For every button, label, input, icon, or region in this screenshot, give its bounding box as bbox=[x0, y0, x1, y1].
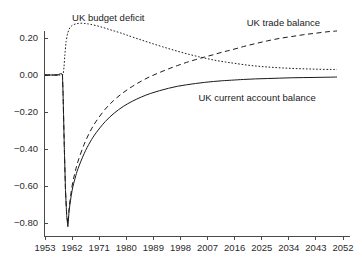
y-tick-label: 0.00 bbox=[20, 69, 39, 80]
x-tick-label: 2016 bbox=[224, 242, 245, 253]
x-tick-label: 2034 bbox=[278, 242, 299, 253]
x-axis-tick-labels: 1953196219711980198919982007201620252034… bbox=[34, 242, 353, 253]
x-tick-label: 2043 bbox=[305, 242, 326, 253]
x-tick-label: 2025 bbox=[251, 242, 272, 253]
chart-figure: 0.200.00−0.20−0.40−0.60−0.80 19531962197… bbox=[0, 0, 362, 272]
series-line-uk-trade-balance bbox=[45, 31, 337, 224]
x-axis-tick-marks bbox=[45, 236, 343, 240]
chart-series-group bbox=[45, 23, 337, 227]
series-line-uk-budget-deficit bbox=[45, 23, 337, 75]
y-tick-label: 0.20 bbox=[20, 32, 39, 43]
x-tick-label: 1980 bbox=[116, 242, 137, 253]
x-tick-label: 1953 bbox=[34, 242, 55, 253]
x-tick-label: 1971 bbox=[89, 242, 110, 253]
y-tick-label: −0.80 bbox=[14, 217, 38, 228]
y-tick-label: −0.20 bbox=[14, 106, 38, 117]
y-tick-label: −0.60 bbox=[14, 180, 38, 191]
x-tick-label: 2052 bbox=[332, 242, 353, 253]
y-axis-tick-labels: 0.200.00−0.20−0.40−0.60−0.80 bbox=[14, 32, 38, 228]
x-tick-label: 1998 bbox=[170, 242, 191, 253]
x-tick-label: 1989 bbox=[143, 242, 164, 253]
x-tick-label: 1962 bbox=[62, 242, 83, 253]
y-axis-tick-marks bbox=[44, 38, 48, 223]
y-tick-label: −0.40 bbox=[14, 143, 38, 154]
series-annotation-uk-current-account-balance: UK current account balance bbox=[199, 92, 316, 103]
x-tick-label: 2007 bbox=[197, 242, 218, 253]
chart-series-annotations: UK budget deficitUK trade balanceUK curr… bbox=[72, 12, 320, 103]
series-annotation-uk-trade-balance: UK trade balance bbox=[247, 17, 320, 28]
chart-axes bbox=[44, 31, 350, 236]
series-annotation-uk-budget-deficit: UK budget deficit bbox=[72, 12, 145, 23]
line-chart-canvas: 0.200.00−0.20−0.40−0.60−0.80 19531962197… bbox=[0, 0, 362, 272]
